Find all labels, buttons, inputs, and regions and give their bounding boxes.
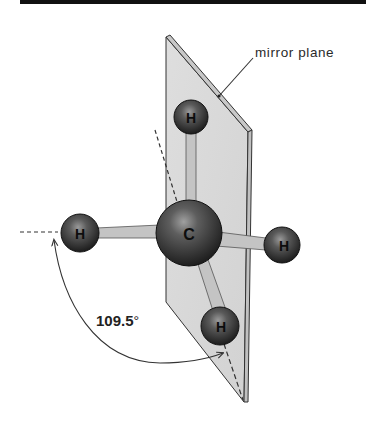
svg-text:H: H [279, 238, 289, 254]
svg-text:C: C [183, 226, 195, 243]
top-rule [20, 0, 366, 4]
svg-text:H: H [186, 110, 196, 126]
bond-angle-label: 109.5° [96, 312, 139, 329]
atom-h-bottom: H [201, 307, 239, 345]
degree-symbol: ° [134, 313, 140, 329]
mirror-plane-leader [219, 58, 253, 96]
bond-top [186, 132, 196, 205]
bond-left [96, 225, 160, 238]
methane-diagram: H H C H H [0, 0, 366, 427]
svg-text:H: H [75, 226, 85, 242]
atom-h-top: H [174, 100, 208, 134]
atom-h-right: H [264, 227, 300, 263]
atom-c-center: C [156, 200, 222, 266]
svg-text:H: H [216, 319, 226, 335]
bond-angle-value: 109.5 [96, 312, 134, 329]
atom-h-left: H [61, 214, 99, 252]
mirror-plane-label: mirror plane [255, 45, 334, 60]
